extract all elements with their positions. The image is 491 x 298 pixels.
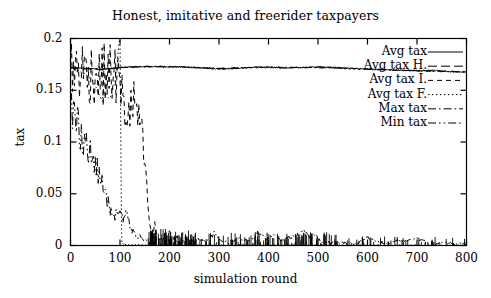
x-tick-label: 300 — [199, 251, 239, 265]
series-line-avg-tax-i — [71, 43, 190, 244]
y-tick-label: 0.05 — [17, 186, 63, 200]
x-tick-label: 500 — [298, 251, 338, 265]
y-tick-label: 0 — [17, 238, 63, 252]
x-tick-label: 600 — [348, 251, 388, 265]
x-tick-label: 800 — [447, 251, 487, 265]
x-tick-label: 0 — [51, 251, 91, 265]
legend-label-max-tax: Max tax — [307, 101, 427, 115]
legend-label-avg-tax-f: Avg tax F. — [307, 87, 427, 101]
y-tick-label: 0.15 — [17, 82, 63, 96]
chart-figure: Honest, imitative and freerider taxpayer… — [0, 0, 491, 298]
legend-label-min-tax: Min tax — [307, 115, 427, 129]
legend-label-avg-tax: Avg tax — [307, 44, 427, 58]
x-tick-label: 400 — [249, 251, 289, 265]
y-tick-label: 0.1 — [17, 134, 63, 148]
x-axis-label: simulation round — [0, 272, 491, 286]
x-tick-label: 100 — [100, 251, 140, 265]
legend-label-avg-tax-i: Avg tax I. — [307, 72, 427, 86]
x-tick-label: 200 — [150, 251, 190, 265]
y-tick-label: 0.2 — [17, 31, 63, 45]
x-tick-label: 700 — [397, 251, 437, 265]
legend-label-avg-tax-h: Avg tax H. — [307, 58, 427, 72]
